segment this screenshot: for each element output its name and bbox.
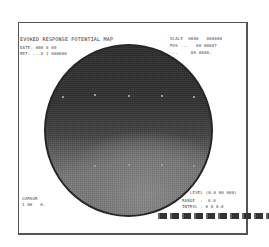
info-bottom-left-2: 1 00 0.: [22, 202, 45, 207]
electrode-marker: [94, 165, 96, 167]
electrode-marker: [94, 94, 96, 96]
legend-swatch: [242, 213, 251, 219]
legend-swatch: [194, 213, 203, 219]
info-top-left-1: DATE: 000 0 00: [20, 45, 57, 50]
legend-swatch: [158, 213, 167, 219]
info-bottom-right-3: INTRVL : 0 0 0.0: [182, 204, 224, 209]
info-bottom-right-1: LEVEL (0.0 00 000): [190, 190, 237, 195]
map-title: EVOKED RESPONSE POTENTIAL MAP: [20, 36, 113, 42]
level-legend: [158, 213, 269, 219]
electrode-marker: [128, 164, 130, 166]
electrode-marker: [161, 164, 163, 166]
legend-swatch: [206, 213, 215, 219]
legend-swatch: [254, 213, 263, 219]
legend-swatch: [170, 213, 179, 219]
electrode-marker: [193, 96, 195, 98]
info-top-right-2: POS ... 00 00007: [170, 43, 217, 48]
legend-swatch: [218, 213, 227, 219]
electrode-marker: [193, 165, 195, 167]
legend-swatch: [266, 213, 269, 219]
info-top-left-2: REF: ...0 1 000000: [20, 51, 67, 56]
info-bottom-left-1: CURSOR: [22, 196, 38, 201]
potential-map-circle: [44, 44, 213, 217]
electrode-marker: [62, 96, 64, 98]
electrode-marker: [161, 95, 163, 97]
legend-swatch: [182, 213, 191, 219]
info-bottom-right-2: RANGE : 0.0: [182, 198, 216, 203]
info-top-right-1: SCALE 0000 000000: [170, 36, 222, 41]
info-top-right-3: ... 00 0000.: [170, 50, 212, 55]
electrode-marker: [128, 95, 130, 97]
legend-swatch: [230, 213, 239, 219]
